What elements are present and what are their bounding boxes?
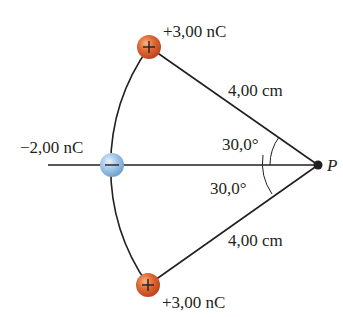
upper-angle-label: 30,0° <box>222 135 259 154</box>
bottom-distance-label: 4,00 cm <box>228 231 283 250</box>
middle-charge-label: −2,00 nC <box>20 138 83 157</box>
top-charge-label: +3,00 nC <box>163 22 226 41</box>
upper-angle-arc <box>270 137 279 165</box>
point-p-dot <box>314 161 323 170</box>
top-positive-charge <box>137 35 161 59</box>
bottom-charge-label: +3,00 nC <box>162 293 225 312</box>
lower-angle-label: 30,0° <box>210 179 247 198</box>
charge-diagram: +3,00 nC −2,00 nC +3,00 nC 4,00 cm 4,00 … <box>0 0 343 317</box>
bottom-positive-charge <box>136 273 160 297</box>
middle-negative-charge <box>100 153 124 177</box>
point-p-label: P <box>326 156 337 175</box>
top-distance-label: 4,00 cm <box>228 81 283 100</box>
